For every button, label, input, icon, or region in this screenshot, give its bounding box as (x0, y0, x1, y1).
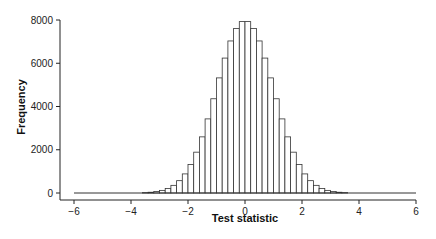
x-tick-label: 6 (413, 206, 419, 217)
y-tick-label: 2000 (31, 144, 54, 155)
histogram-bar (251, 28, 257, 193)
x-tick-label: 4 (356, 206, 362, 217)
histogram-bar (245, 22, 251, 193)
histogram-bar (222, 58, 228, 193)
histogram-bar (308, 181, 314, 193)
histogram-bar (177, 181, 183, 193)
x-tick-label: −2 (182, 206, 194, 217)
histogram-bar (217, 78, 223, 193)
histogram-bar (188, 165, 194, 193)
histogram-bar (205, 119, 211, 193)
histogram-bar (234, 28, 240, 193)
histogram-bar (211, 99, 217, 193)
y-tick-label: 4000 (31, 101, 54, 112)
histogram-bar (291, 152, 297, 193)
y-axis: 02000400060008000 (31, 15, 60, 201)
histogram-bar (319, 188, 325, 193)
histogram-bar (199, 137, 205, 193)
histogram-bar (302, 174, 308, 193)
histogram-bar (165, 188, 171, 193)
histogram-bars (142, 22, 347, 193)
x-tick-label: −6 (68, 206, 80, 217)
x-tick-label: −4 (125, 206, 137, 217)
histogram-bar (268, 78, 274, 193)
histogram-bar (279, 119, 285, 193)
histogram-bar (171, 185, 177, 193)
histogram-bar (256, 41, 262, 193)
y-axis-title: Frequency (15, 78, 27, 135)
histogram-bar (194, 152, 200, 193)
histogram-bar (296, 165, 302, 193)
x-axis-title: Test statistic (212, 212, 278, 224)
y-tick-label: 8000 (31, 15, 54, 26)
x-tick-label: 2 (299, 206, 305, 217)
histogram-bar (313, 185, 319, 193)
histogram-bar (228, 41, 234, 193)
histogram-bar (182, 174, 188, 193)
y-tick-label: 0 (47, 188, 53, 199)
histogram-chart: 02000400060008000 −6−4−20246 Test statis… (0, 0, 436, 239)
histogram-bar (285, 137, 291, 193)
histogram-bar (239, 22, 245, 193)
histogram-bar (274, 99, 280, 193)
y-tick-label: 6000 (31, 58, 54, 69)
histogram-bar (262, 58, 268, 193)
